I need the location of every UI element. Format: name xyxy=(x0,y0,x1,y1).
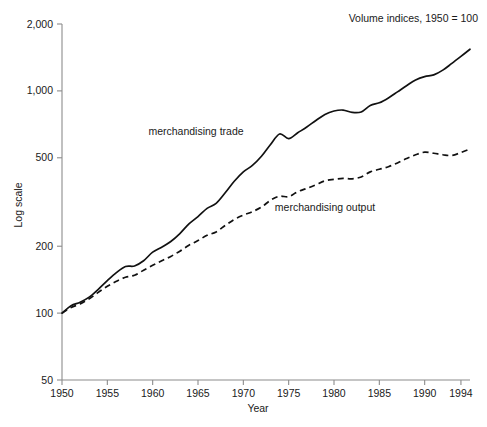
y-tick-label: 50 xyxy=(41,374,53,386)
y-tick-label: 100 xyxy=(35,307,53,319)
x-axis-title: Year xyxy=(247,402,269,414)
axes-group: 2,0001,00050020010050 195019551960196519… xyxy=(27,18,473,399)
series-line-merchandising-output xyxy=(62,149,470,313)
y-tick-label: 2,000 xyxy=(27,18,53,30)
y-axis-tick-labels: 2,0001,00050020010050 xyxy=(27,18,53,386)
line-chart: 2,0001,00050020010050 195019551960196519… xyxy=(0,0,487,427)
x-tick-label: 1955 xyxy=(96,387,120,399)
series-label-merchandising-output: merchandising output xyxy=(275,201,375,213)
x-tick-label: 1990 xyxy=(413,387,437,399)
x-tick-label: 1960 xyxy=(141,387,165,399)
x-tick-label: 1985 xyxy=(368,387,392,399)
x-tick-label: 1965 xyxy=(186,387,210,399)
x-tick-label: 1975 xyxy=(277,387,301,399)
y-tick-label: 200 xyxy=(35,240,53,252)
series-label-merchandising-trade: merchandising trade xyxy=(148,125,243,137)
y-axis-ticks xyxy=(57,24,62,380)
x-tick-label: 1980 xyxy=(322,387,346,399)
y-tick-label: 500 xyxy=(35,151,53,163)
x-tick-label: 1970 xyxy=(232,387,256,399)
x-axis-ticks xyxy=(62,380,461,385)
chart-figure: 2,0001,00050020010050 195019551960196519… xyxy=(0,0,487,427)
x-axis-tick-labels: 1950195519601965197019751980198519901994 xyxy=(50,387,472,399)
series-line-merchandising-trade xyxy=(62,49,470,313)
x-tick-label: 1994 xyxy=(449,387,473,399)
units-note: Volume indices, 1950 = 100 xyxy=(349,12,478,24)
y-axis-title: Log scale xyxy=(12,182,24,227)
x-tick-label: 1950 xyxy=(50,387,74,399)
series-group xyxy=(62,49,470,313)
y-tick-label: 1,000 xyxy=(27,84,53,96)
